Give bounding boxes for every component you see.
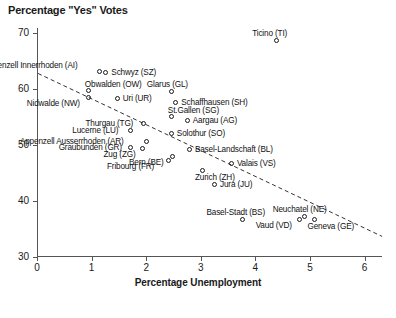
data-point-marker [240, 217, 245, 222]
data-point-marker [185, 118, 190, 123]
y-tick-mark [33, 89, 37, 90]
scatter-chart: Percentage "Yes" Votes 3040506070 012345… [0, 0, 396, 318]
data-point-label: Glarus (GL) [147, 80, 188, 89]
y-tick-label: 40 [3, 195, 29, 206]
x-tick-label: 4 [245, 262, 265, 273]
x-tick-mark [255, 257, 256, 261]
data-point-label: Solothur (SO) [177, 129, 225, 138]
x-tick-mark [146, 257, 147, 261]
data-point-marker [86, 95, 91, 100]
y-tick-label: 60 [3, 83, 29, 94]
plot-area: 3040506070 0123456 Ticino (TI)Appenzell … [0, 0, 396, 318]
data-point-label: Schwyz (SZ) [111, 68, 156, 77]
x-tick-label: 5 [300, 262, 320, 273]
data-point-label: Lucerne (LU) [72, 126, 118, 135]
data-point-label: Aargau (AG) [193, 116, 237, 125]
x-tick-label: 2 [136, 262, 156, 273]
data-point-marker [103, 70, 108, 75]
x-tick-label: 3 [191, 262, 211, 273]
data-point-label: Neuchatel (NE) [273, 205, 327, 214]
x-tick-label: 0 [27, 262, 47, 273]
data-point-label: Ticino (TI) [252, 29, 287, 38]
y-tick-mark [33, 33, 37, 34]
data-point-label: Fribourg (FR) [107, 162, 154, 171]
y-tick-label: 70 [3, 27, 29, 38]
x-tick-mark [92, 257, 93, 261]
x-tick-mark [201, 257, 202, 261]
data-point-label: Vaud (VD) [256, 221, 292, 230]
x-tick-mark [310, 257, 311, 261]
data-point-marker [274, 38, 279, 43]
x-tick-label: 6 [355, 262, 375, 273]
y-tick-mark [33, 201, 37, 202]
data-point-marker [97, 69, 102, 74]
data-point-marker [302, 214, 307, 219]
x-axis-title: Percentage Unemployment [0, 277, 396, 288]
data-point-label: Obwalden (OW) [85, 80, 142, 89]
y-tick-label: 30 [3, 251, 29, 262]
data-point-marker [169, 89, 174, 94]
data-point-marker [169, 131, 174, 136]
data-point-label: Uri (UR) [123, 94, 152, 103]
data-point-label: Valais (VS) [237, 159, 276, 168]
data-point-marker [140, 146, 145, 151]
data-point-marker [187, 147, 192, 152]
data-point-marker [115, 96, 120, 101]
data-point-label: Jura (JU) [220, 180, 252, 189]
data-point-label: Nidwalde (NW) [27, 99, 80, 108]
data-point-marker [141, 121, 146, 126]
data-point-marker [229, 161, 234, 166]
data-point-label: St.Gallen (SG) [168, 106, 219, 115]
data-point-marker [297, 217, 302, 222]
data-point-marker [173, 100, 178, 105]
x-axis-line [37, 256, 382, 257]
x-tick-mark [365, 257, 366, 261]
data-point-label: Basel-Stadt (BS) [206, 208, 265, 217]
data-point-marker [128, 128, 133, 133]
data-point-label: Basel-Landschaft (BL) [195, 145, 273, 154]
x-tick-mark [37, 257, 38, 261]
x-tick-label: 1 [82, 262, 102, 273]
data-point-marker [166, 158, 171, 163]
data-point-label: Appenzell Innerrhoden (AI) [0, 61, 77, 70]
data-point-marker [212, 182, 217, 187]
data-point-marker [144, 139, 149, 144]
data-point-label: Geneva (GE) [307, 222, 354, 231]
